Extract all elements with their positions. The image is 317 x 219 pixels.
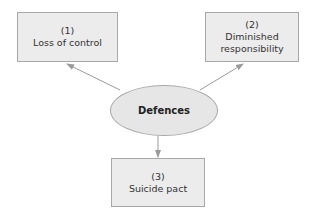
center-node-defences: Defences (110, 85, 218, 136)
arrow-to-node-2 (200, 64, 243, 90)
node-suicide-pact: (3) Suicide pact (111, 158, 205, 207)
node-label: Diminished responsibility (212, 31, 292, 55)
arrow-to-node-1 (67, 64, 120, 90)
center-label: Defences (138, 105, 190, 116)
node-diminished-responsibility: (2) Diminished responsibility (205, 12, 299, 62)
node-loss-of-control: (1) Loss of control (17, 12, 118, 62)
node-number: (2) (245, 19, 258, 31)
node-number: (1) (61, 25, 74, 37)
node-number: (3) (151, 171, 164, 183)
node-label: Suicide pact (129, 183, 187, 195)
node-label: Loss of control (33, 37, 102, 49)
